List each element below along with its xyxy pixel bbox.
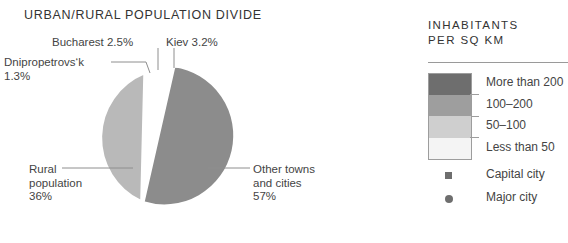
swatch-100-200 — [428, 95, 472, 117]
legend-title-line2: PER SQ KM — [428, 33, 519, 48]
callout-kiev: Kiev 3.2% — [166, 36, 218, 50]
pie-slice-other-towns-and-cities — [144, 66, 235, 205]
pie-slice-dnipropetrovsk — [147, 69, 153, 72]
swatch-label-50-100: 50–100 — [486, 118, 526, 132]
callout-dnipropetrovsk-line1: Dnipropetrovs‘k — [4, 56, 84, 70]
callout-bucharest: Bucharest 2.5% — [52, 36, 133, 50]
legend-panel: INHABITANTS PER SQ KM More than 200 100–… — [414, 0, 568, 243]
legend-item-more-than-200: More than 200 — [428, 73, 470, 95]
callout-dnipropetrovsk: Dnipropetrovs‘k 1.3% — [4, 56, 84, 83]
legend-title-line1: INHABITANTS — [428, 18, 519, 33]
legend-label-capital-city: Capital city — [486, 167, 545, 181]
callout-rural-population: Rural population 36% — [29, 163, 82, 204]
callout-other-towns: Other towns and cities 57% — [253, 163, 315, 204]
pie-chart-panel: URBAN/RURAL POPULATION DIVIDE — [0, 0, 410, 243]
swatch-less-than-50 — [428, 138, 472, 161]
pie-slice-rural-population — [101, 73, 144, 201]
legend-title: INHABITANTS PER SQ KM — [428, 18, 519, 48]
infographic-root: URBAN/RURAL POPULATION DIVIDE — [0, 0, 568, 243]
legend-item-50-100: 50–100 — [428, 116, 470, 138]
swatch-label-100-200: 100–200 — [486, 97, 533, 111]
density-legend: More than 200 100–200 50–100 Less than 5… — [428, 73, 470, 159]
callout-other-line2: and cities — [253, 177, 315, 191]
swatch-label-less-than-50: Less than 50 — [486, 140, 555, 154]
callout-rural-line1: Rural — [29, 163, 82, 177]
callout-rural-line3: 36% — [29, 190, 82, 204]
swatch-more-than-200 — [428, 73, 472, 96]
pie-slice-kiev — [166, 66, 180, 67]
pie-chart: Bucharest 2.5% Kiev 3.2% Dnipropetrovs‘k… — [0, 0, 410, 243]
callout-other-line1: Other towns — [253, 163, 315, 177]
swatch-label-more-than-200: More than 200 — [486, 75, 563, 89]
legend-label-major-city: Major city — [486, 190, 537, 204]
major-city-marker-icon — [445, 195, 453, 203]
callout-other-line3: 57% — [253, 190, 315, 204]
capital-city-marker-icon — [445, 172, 452, 179]
pie-slice-bucharest — [154, 67, 165, 69]
callout-rural-line2: population — [29, 177, 82, 191]
callout-dnipropetrovsk-line2: 1.3% — [4, 70, 84, 84]
legend-divider — [428, 62, 568, 63]
swatch-50-100 — [428, 116, 472, 138]
legend-item-less-than-50: Less than 50 — [428, 138, 470, 160]
legend-item-100-200: 100–200 — [428, 95, 470, 117]
